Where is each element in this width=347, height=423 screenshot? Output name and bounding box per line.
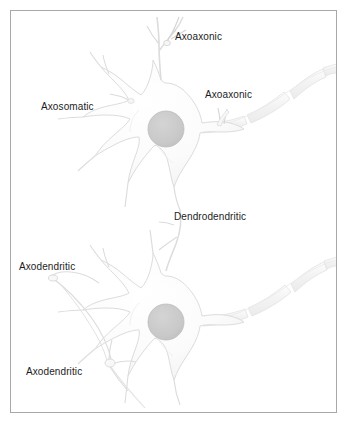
dendrite-branch [90, 52, 101, 67]
synaptic-bouton [128, 99, 134, 104]
dendrite-branch [174, 380, 180, 405]
label-axodendritic-upper: Axodendritic [19, 261, 75, 272]
synaptic-bouton [105, 359, 115, 367]
label-dendrodendritic: Dendrodendritic [174, 211, 246, 222]
dendrite-branch [78, 349, 95, 364]
label-axosomatic: Axosomatic [41, 101, 94, 112]
myelin-segment [323, 64, 336, 76]
synaptic-bouton [49, 275, 58, 281]
nucleus-upper [148, 111, 184, 147]
myelin-segment [291, 262, 327, 292]
nucleus-lower [148, 304, 184, 340]
myelin-segment [248, 285, 291, 316]
myelin-segment [247, 92, 290, 123]
dendrite-branch [58, 117, 83, 119]
myelin-segment [290, 69, 326, 99]
dendrite-branch [147, 26, 159, 44]
dendrite-descending-upper [174, 187, 180, 210]
dendrite-branch [90, 245, 101, 260]
neuron-upper [58, 17, 336, 210]
dendrite-branch [78, 156, 95, 171]
synaptic-bouton [164, 40, 171, 45]
label-axoaxonic-top: Axoaxonic [175, 31, 222, 42]
postsynaptic-dendrite [110, 367, 128, 391]
dendrite-branch [125, 183, 128, 207]
label-axoaxonic-axon: Axoaxonic [205, 89, 252, 100]
dendrite-branch [159, 222, 174, 225]
neuron-lower [58, 230, 336, 405]
label-axodendritic-lower: Axodendritic [26, 366, 82, 377]
figure-root: Axoaxonic Axoaxonic Axosomatic Dendroden… [0, 0, 347, 423]
dendrite-branch [150, 230, 153, 253]
dendrite-branch [58, 310, 83, 312]
axon-presynaptic-long [55, 279, 107, 361]
